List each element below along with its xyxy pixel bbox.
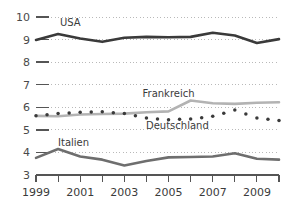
- y-axis-tick-label: 9: [23, 34, 30, 47]
- series-point-deutschland: [123, 112, 127, 116]
- x-axis-tick-label: 1999: [22, 186, 50, 199]
- y-axis-tick-label: 5: [23, 124, 30, 137]
- series-line-usa: [36, 33, 279, 43]
- series-point-deutschland: [101, 110, 105, 114]
- series-label-deutschland: Deutschland: [146, 120, 209, 131]
- series-point-deutschland: [89, 110, 93, 114]
- y-axis-tick-label: 3: [23, 169, 30, 182]
- series-point-deutschland: [244, 112, 248, 116]
- x-axis-tick-label: 2007: [199, 186, 227, 199]
- series-point-deutschland: [233, 108, 237, 112]
- series-label-italien: Italien: [58, 137, 89, 148]
- series-point-deutschland: [266, 117, 270, 121]
- y-axis-tick-label: 8: [23, 56, 30, 69]
- series-point-deutschland: [211, 115, 215, 119]
- series-point-deutschland: [277, 119, 281, 123]
- y-axis-tick-label: 7: [23, 79, 30, 92]
- x-axis-labels-group: 199920012003200520072009: [22, 186, 271, 199]
- y-axis-tick-label: 4: [23, 146, 30, 159]
- series-point-deutschland: [67, 111, 71, 115]
- series-line-frankreich: [36, 101, 279, 117]
- series-point-deutschland: [78, 111, 82, 115]
- series-label-frankreich: Frankreich: [143, 88, 195, 99]
- x-axis-tick-label: 2009: [243, 186, 271, 199]
- series-point-deutschland: [45, 113, 49, 117]
- series-line-italien: [36, 149, 279, 165]
- series-point-deutschland: [34, 114, 38, 118]
- series-label-usa: USA: [60, 17, 81, 28]
- series-point-deutschland: [112, 111, 116, 115]
- line-chart: 345678910 199920012003200520072009 USAFr…: [0, 0, 285, 206]
- series-point-deutschland: [56, 112, 60, 116]
- series-point-deutschland: [134, 114, 138, 118]
- x-axis-tick-label: 2003: [110, 186, 138, 199]
- x-axis-tick-label: 2005: [155, 186, 183, 199]
- chart-plot-area: 345678910 199920012003200520072009 USAFr…: [0, 0, 285, 206]
- x-axis-ticks-group: [36, 175, 279, 182]
- y-axis-tick-label: 10: [16, 11, 30, 24]
- series-point-deutschland: [222, 111, 226, 115]
- x-axis-tick-label: 2001: [66, 186, 94, 199]
- y-axis-tick-label: 6: [23, 101, 30, 114]
- series-point-deutschland: [255, 116, 259, 120]
- y-axis-labels-group: 345678910: [16, 11, 30, 182]
